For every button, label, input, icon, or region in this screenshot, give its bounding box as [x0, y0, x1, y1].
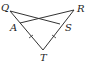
segment-qs — [10, 11, 60, 24]
label-s: S — [65, 22, 72, 33]
label-q: Q — [1, 2, 9, 13]
geometry-diagram: Q R A S T — [0, 0, 88, 65]
label-r: R — [76, 3, 85, 14]
label-t: T — [40, 52, 48, 63]
label-a: A — [9, 22, 17, 33]
